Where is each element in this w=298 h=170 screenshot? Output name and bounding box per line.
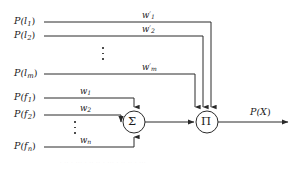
edge-l2-to-product	[44, 36, 203, 107]
weight-label-w-prime-m: w′m	[142, 63, 157, 72]
weight-label-w2: w2	[80, 104, 91, 113]
ellipsis-top-inputs	[102, 47, 104, 60]
ellipsis-bottom-inputs	[74, 121, 76, 134]
input-label-fn: P(fn)	[14, 141, 36, 152]
input-label-f2: P(f2)	[14, 109, 36, 120]
input-label-l2: P(l2)	[14, 30, 35, 41]
input-label-f1: P(f1)	[14, 92, 36, 103]
figure-canvas: P(l1) P(l2) P(lm) P(f1) P(f2) P(fn) w′1 …	[0, 0, 298, 170]
input-label-l1: P(l1)	[14, 16, 35, 27]
input-label-lm: P(lm)	[14, 68, 37, 79]
scan-artifact-text: · ·· · ··· · ·· ·· · ··· · ·· ·· · ···	[60, 160, 290, 165]
edge-lm-to-product	[44, 74, 195, 107]
weight-label-w-prime-1: w′1	[142, 11, 155, 20]
summation-node-glyph: Σ	[128, 116, 136, 128]
weight-label-wn: wn	[80, 136, 91, 145]
edge-l1-to-product	[44, 22, 211, 107]
edge-f2-to-sum	[44, 115, 121, 122]
product-node-glyph: Π	[201, 116, 211, 128]
weight-label-w1: w1	[80, 87, 91, 96]
output-label-px: P(X)	[250, 107, 271, 117]
weight-label-w-prime-2: w′2	[142, 25, 155, 34]
